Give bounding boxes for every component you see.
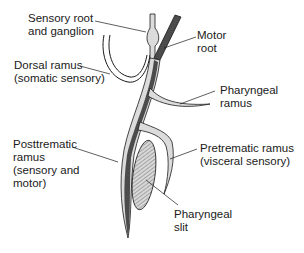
label-sensory-root: Sensory root and ganglion [28, 12, 94, 38]
label-pharyngeal-slit: Pharyngeal slit [174, 208, 232, 234]
dorsal-ramus-shape [103, 35, 150, 82]
label-posttrematic-ramus: Posttrematic ramus (sensory and motor) [13, 138, 79, 190]
label-pretrematic-ramus: Pretrematic ramus (visceral sensory) [200, 142, 294, 168]
label-pharyngeal-ramus: Pharyngeal ramus [220, 84, 278, 110]
pharyngeal-ramus-shape [148, 88, 210, 106]
label-dorsal-ramus: Dorsal ramus (somatic sensory) [14, 59, 105, 85]
label-motor-root: Motor root [197, 29, 226, 55]
